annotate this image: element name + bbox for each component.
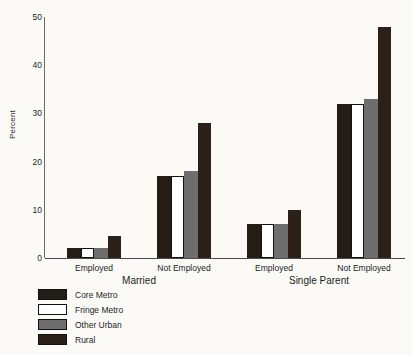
bar-other-urban-group-1 bbox=[184, 171, 198, 258]
legend-swatch-icon-2 bbox=[38, 319, 67, 330]
bar-rural-group-0 bbox=[108, 236, 122, 258]
bar-fringe-metro-group-0 bbox=[81, 248, 95, 258]
bar-chart: Percent 01020304050 EmployedNot Employed… bbox=[0, 0, 412, 355]
y-axis-tick-30: 30 bbox=[16, 108, 42, 118]
bar-core-metro-group-3 bbox=[337, 104, 351, 258]
legend-label-0: Core Metro bbox=[75, 290, 118, 300]
legend-item-fringe-metro: Fringe Metro bbox=[38, 302, 123, 317]
y-axis-tick-0: 0 bbox=[16, 253, 42, 263]
bar-fringe-metro-group-1 bbox=[171, 176, 185, 258]
legend-swatch-icon-3 bbox=[38, 334, 67, 345]
y-axis-tick-50: 50 bbox=[16, 12, 42, 22]
legend-label-1: Fringe Metro bbox=[75, 305, 123, 315]
y-axis-tick-20: 20 bbox=[16, 157, 42, 167]
legend-label-2: Other Urban bbox=[75, 320, 122, 330]
bar-rural-group-1 bbox=[198, 123, 212, 258]
bar-other-urban-group-0 bbox=[94, 248, 108, 258]
x-group-label-0: Married bbox=[122, 275, 156, 286]
bar-other-urban-group-2 bbox=[274, 224, 288, 258]
legend-swatch-icon-0 bbox=[38, 289, 67, 300]
legend-label-3: Rural bbox=[75, 335, 95, 345]
x-tick-label-2: Employed bbox=[255, 263, 293, 273]
x-group-label-1: Single Parent bbox=[289, 275, 349, 286]
chart-legend: Core MetroFringe MetroOther UrbanRural bbox=[38, 287, 123, 347]
legend-item-other-urban: Other Urban bbox=[38, 317, 123, 332]
legend-item-rural: Rural bbox=[38, 332, 123, 347]
plot-area bbox=[45, 17, 405, 258]
x-axis-line bbox=[45, 258, 405, 259]
legend-swatch-icon-1 bbox=[38, 304, 67, 315]
bar-core-metro-group-1 bbox=[157, 176, 171, 258]
x-tick-label-1: Not Employed bbox=[157, 263, 210, 273]
x-tick-label-0: Employed bbox=[75, 263, 113, 273]
bar-core-metro-group-2 bbox=[247, 224, 261, 258]
bar-rural-group-2 bbox=[288, 210, 302, 258]
bar-other-urban-group-3 bbox=[364, 99, 378, 258]
y-axis-ticks: 01020304050 bbox=[8, 0, 42, 355]
legend-item-core-metro: Core Metro bbox=[38, 287, 123, 302]
y-axis-tick-10: 10 bbox=[16, 205, 42, 215]
bar-fringe-metro-group-3 bbox=[351, 104, 365, 258]
bar-fringe-metro-group-2 bbox=[261, 224, 275, 258]
bar-rural-group-3 bbox=[378, 27, 392, 258]
y-axis-tick-40: 40 bbox=[16, 60, 42, 70]
x-tick-label-3: Not Employed bbox=[337, 263, 390, 273]
bar-core-metro-group-0 bbox=[67, 248, 81, 258]
